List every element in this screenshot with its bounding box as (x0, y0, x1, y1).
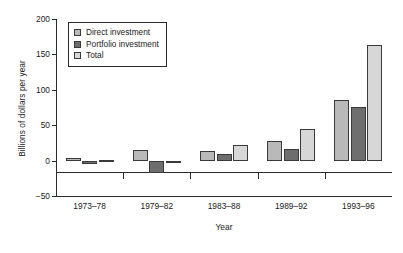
y-tick-mark (52, 54, 56, 55)
legend-swatch-direct-icon (74, 29, 81, 36)
x-group-divider (123, 172, 124, 179)
x-tick-label: 1979–82 (140, 201, 173, 211)
y-tick-label: 150 (16, 49, 50, 59)
legend-label: Portfolio investment (86, 39, 159, 51)
bar-chart-figure: Billions of dollars per year 20015010050… (0, 0, 403, 253)
bar-direct (267, 141, 282, 160)
legend-label: Total (86, 50, 104, 62)
y-tick-label: 50 (16, 120, 50, 130)
legend-item: Portfolio investment (74, 39, 159, 51)
y-tick-label: 200 (16, 14, 50, 24)
bar-portfolio (284, 149, 299, 161)
x-group-divider (258, 172, 259, 179)
y-tick-label: 0 (16, 156, 50, 166)
bar-total (233, 145, 248, 161)
y-tick-mark (52, 125, 56, 126)
legend-item: Direct investment (74, 27, 159, 39)
bar-portfolio (217, 154, 232, 160)
x-tick-label: 1973–78 (73, 201, 106, 211)
legend-swatch-total-icon (74, 52, 81, 59)
y-tick-mark (52, 196, 56, 197)
x-tick-label: 1989–92 (275, 201, 308, 211)
bar-direct (66, 158, 81, 161)
x-axis-title: Year (56, 222, 392, 232)
y-tick-label: 100 (16, 85, 50, 95)
legend-item: Total (74, 50, 159, 62)
bar-portfolio (149, 161, 164, 173)
x-group-divider (190, 172, 191, 179)
legend-swatch-portfolio-icon (74, 41, 81, 48)
bar-portfolio (351, 107, 366, 161)
zero-baseline (56, 172, 392, 173)
y-axis-line (56, 19, 57, 196)
y-tick-mark (52, 161, 56, 162)
bar-portfolio (82, 161, 97, 165)
x-tick-label: 1993–96 (342, 201, 375, 211)
y-tick-mark (52, 90, 56, 91)
chart-legend: Direct investment Portfolio investment T… (68, 22, 167, 67)
y-tick-label: −50 (16, 191, 50, 201)
y-tick-mark (52, 19, 56, 20)
x-tick-label: 1983–88 (208, 201, 241, 211)
bar-total (99, 160, 114, 162)
bar-direct (133, 150, 148, 161)
bar-direct (200, 151, 215, 160)
bar-total (367, 45, 382, 160)
bar-direct (334, 100, 349, 161)
plot-area: 200150100500−50 1973–781979–821983–88198… (56, 19, 392, 196)
x-group-divider (325, 172, 326, 179)
x-axis-line (56, 196, 392, 197)
bar-total (300, 129, 315, 160)
legend-label: Direct investment (86, 27, 150, 39)
bar-total (166, 161, 181, 163)
